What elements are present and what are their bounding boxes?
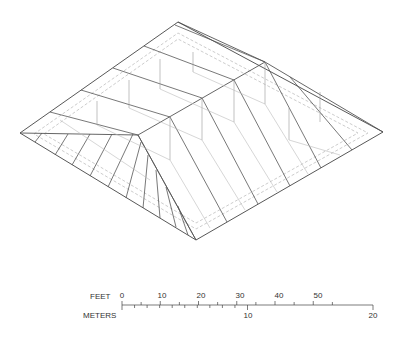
meters-tick-label: 20 xyxy=(369,311,378,320)
struts xyxy=(97,52,320,160)
feet-tick-label: 40 xyxy=(275,291,284,300)
feet-label: FEET xyxy=(90,292,111,301)
feet-tick-label: 10 xyxy=(158,291,167,300)
hips-and-ridge xyxy=(20,22,383,240)
feet-tick-label: 50 xyxy=(314,291,323,300)
scale-bar: FEET METERS 0 10 20 30 40 50 10 20 xyxy=(83,291,378,320)
feet-ticks xyxy=(122,301,332,305)
feet-tick-label: 30 xyxy=(236,291,245,300)
feet-tick-label: 0 xyxy=(120,291,125,300)
hip-left-top xyxy=(20,133,138,135)
feet-tick-label: 20 xyxy=(197,291,206,300)
hip-right-bottom xyxy=(265,62,383,132)
hidden-lines xyxy=(60,72,340,228)
roof-diagram: FEET METERS 0 10 20 30 40 50 10 20 xyxy=(0,0,401,350)
roof-eave-perimeter xyxy=(20,22,383,240)
meters-label: METERS xyxy=(83,311,116,320)
rafters-upper-left xyxy=(50,25,265,135)
roof-outline xyxy=(20,22,383,240)
meters-tick-label: 10 xyxy=(244,311,253,320)
wall-line-dashed xyxy=(34,33,368,229)
ridge xyxy=(138,62,265,135)
meter-ticks xyxy=(122,305,373,310)
